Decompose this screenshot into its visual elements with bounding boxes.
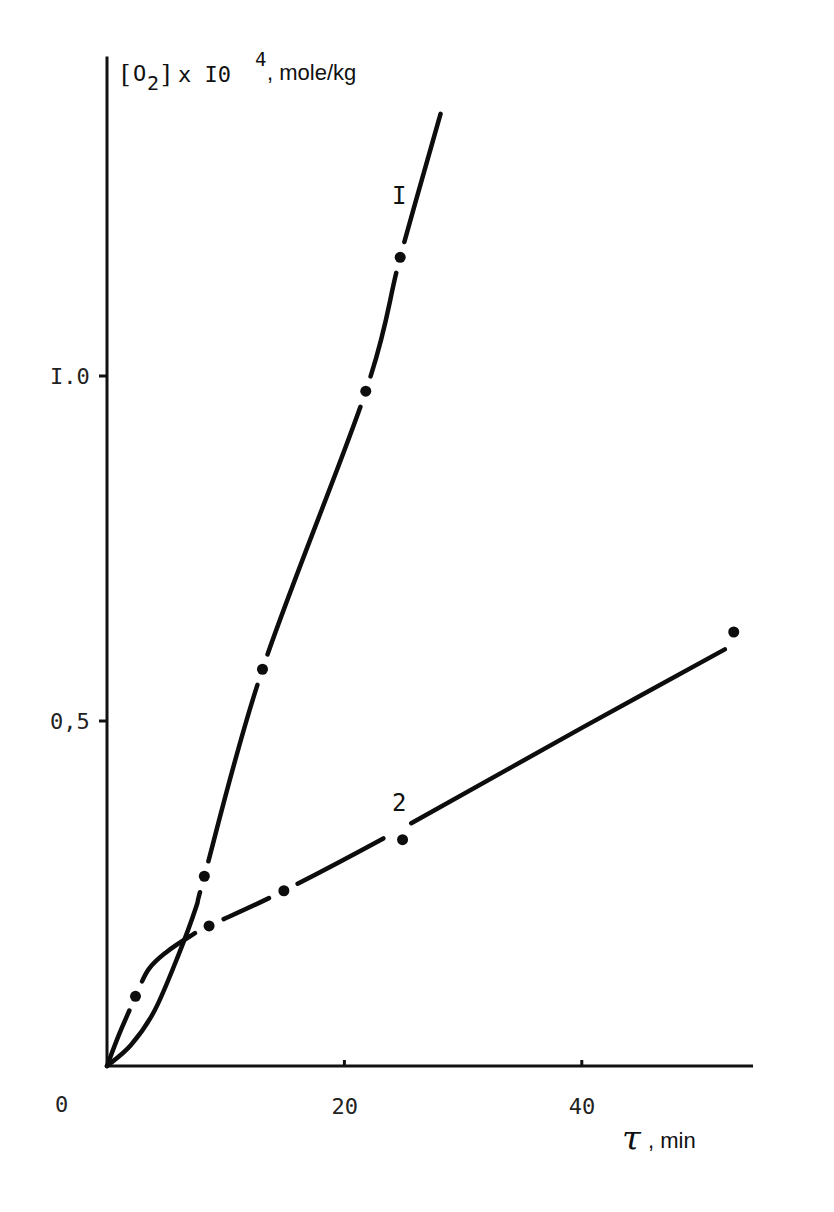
y-axis-label-units: , mole/kg	[267, 60, 356, 85]
chart: 20400,5I.0 I2 0 [ O 2 ] x I0 4 , mole/kg…	[0, 0, 834, 1212]
origin-label: 0	[55, 1092, 68, 1117]
series-I-point-3	[395, 252, 406, 263]
axes	[107, 58, 752, 1066]
curves	[107, 114, 752, 1066]
series-I-point-1	[257, 664, 268, 675]
x-axis-label-units: , min	[648, 1128, 696, 1153]
series-2-point-1	[204, 920, 215, 931]
y-tick-label-1: I.0	[50, 364, 90, 389]
x-axis-label: τ , min	[622, 1118, 696, 1158]
series-2-line	[107, 635, 752, 1066]
ticks	[99, 376, 582, 1066]
y-axis-label-exponent: 4	[255, 48, 266, 70]
data-points	[130, 252, 739, 1002]
y-axis-label-multiplier: x I0	[178, 62, 231, 87]
x-tick-label-40: 40	[569, 1094, 596, 1119]
series-2-point-4	[728, 626, 739, 637]
y-tick-label-0: 0,5	[50, 709, 90, 734]
x-tick-label-20: 20	[331, 1094, 358, 1119]
series-label-2: 2	[392, 789, 406, 817]
series-I-line	[107, 114, 441, 1066]
y-axis-label-bracket-close: ]	[161, 60, 170, 88]
y-axis-label-bracket-open: [	[121, 60, 130, 88]
y-axis-label-subscript: 2	[147, 71, 159, 95]
y-axis-label: [ O 2 ] x I0 4 , mole/kg	[121, 48, 356, 95]
series-I-point-2	[360, 386, 371, 397]
series-label-I: I	[392, 182, 406, 210]
series-2-point-0	[130, 991, 141, 1002]
series-2-point-3	[397, 834, 408, 845]
tick-labels: 20400,5I.0	[50, 364, 595, 1119]
x-axis-label-symbol: τ	[622, 1118, 642, 1158]
series-2-point-2	[278, 885, 289, 896]
y-axis-label-species: O	[133, 61, 146, 86]
series-I-point-0	[199, 871, 210, 882]
